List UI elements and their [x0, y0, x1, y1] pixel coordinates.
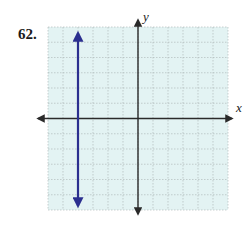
x-axis-label: x — [235, 100, 242, 115]
y-axis-label: y — [141, 9, 149, 24]
coordinate-graph: x y — [0, 0, 252, 226]
